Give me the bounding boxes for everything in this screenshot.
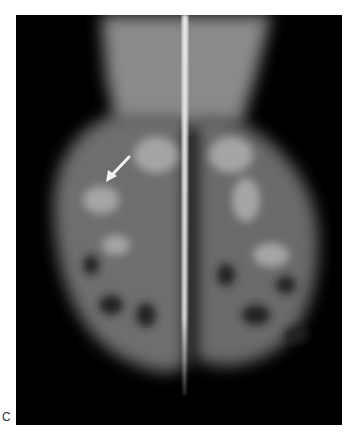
panel-label: C bbox=[2, 410, 11, 424]
mammogram-image bbox=[16, 15, 342, 425]
mammogram-graphic bbox=[16, 15, 342, 425]
